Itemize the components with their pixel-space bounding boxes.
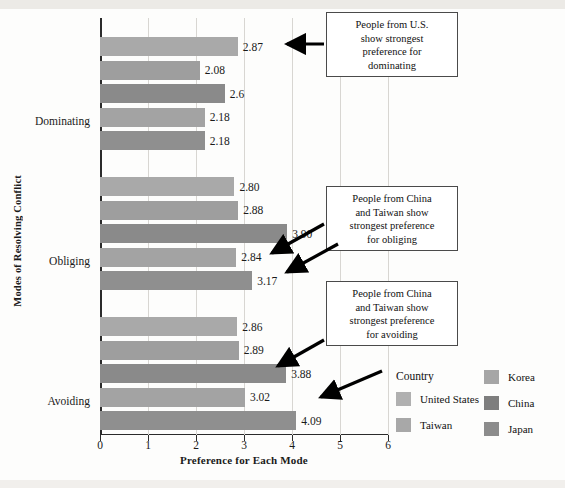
bar-value-label: 3.17 bbox=[252, 274, 277, 286]
bar-value-label: 2.87 bbox=[238, 40, 263, 52]
legend-label: United States bbox=[420, 393, 479, 405]
bar-japan-obliging bbox=[100, 271, 252, 290]
annotation-obliging: People from China and Taiwan show strong… bbox=[326, 186, 458, 251]
annotation-obliging-line-4: for obliging bbox=[333, 233, 451, 247]
bar-row: 2.6 bbox=[100, 84, 388, 103]
x-axis-title: Preference for Each Mode bbox=[100, 454, 388, 466]
bar-united-states-avoiding bbox=[100, 317, 237, 336]
bar-china-avoiding bbox=[100, 388, 245, 407]
bar-value-label: 2.88 bbox=[238, 204, 263, 216]
x-tick-label-1: 1 bbox=[145, 439, 151, 451]
bar-value-label: 4.09 bbox=[296, 414, 321, 426]
category-label-obliging: Obliging bbox=[49, 255, 90, 267]
bar-row: 2.18 bbox=[100, 108, 388, 127]
legend-item-taiwan[interactable]: Taiwan bbox=[396, 418, 452, 432]
annotation-avoiding-line-3: strongest preference bbox=[333, 314, 451, 328]
legend-item-korea[interactable]: Korea bbox=[484, 370, 535, 384]
bar-value-label: 2.84 bbox=[236, 251, 261, 263]
legend-label: China bbox=[508, 397, 534, 409]
annotation-avoiding-line-1: People from China bbox=[333, 287, 451, 301]
x-tick-label-2: 2 bbox=[193, 439, 199, 451]
legend: Country United StatesTaiwanKoreaChinaJap… bbox=[396, 370, 556, 442]
bar-value-label: 2.86 bbox=[237, 320, 262, 332]
bar-value-label: 2.08 bbox=[200, 64, 225, 76]
bar-row: 2.18 bbox=[100, 131, 388, 150]
bar-japan-avoiding bbox=[100, 411, 296, 430]
annotation-dominating-line-1: People from U.S. bbox=[333, 18, 451, 32]
bar-korea-dominating bbox=[100, 84, 225, 103]
category-label-dominating: Dominating bbox=[35, 115, 90, 127]
x-tick-label-3: 3 bbox=[241, 439, 247, 451]
bar-row: 3.88 bbox=[100, 364, 388, 383]
bar-china-obliging bbox=[100, 248, 236, 267]
annotation-dominating-line-3: preference for bbox=[333, 45, 451, 59]
annotation-dominating-line-4: dominating bbox=[333, 59, 451, 73]
annotation-obliging-line-3: strongest preference bbox=[333, 219, 451, 233]
y-axis-category-labels: Dominating Obliging Avoiding bbox=[0, 18, 98, 435]
bar-japan-dominating bbox=[100, 131, 205, 150]
annotation-avoiding: People from China and Taiwan show strong… bbox=[326, 281, 458, 346]
annotation-avoiding-line-2: and Taiwan show bbox=[333, 301, 451, 315]
x-tick-label-5: 5 bbox=[337, 439, 343, 451]
legend-item-china[interactable]: China bbox=[484, 396, 534, 410]
annotation-dominating: People from U.S. show strongest preferen… bbox=[326, 12, 458, 77]
bar-row: 4.09 bbox=[100, 411, 388, 430]
bar-value-label: 2.89 bbox=[239, 344, 264, 356]
chart-canvas: Modes of Resolving Conflict Dominating O… bbox=[0, 0, 565, 488]
x-tick-label-0: 0 bbox=[97, 439, 103, 451]
bar-taiwan-obliging bbox=[100, 201, 238, 220]
bar-korea-obliging bbox=[100, 224, 287, 243]
legend-title: Country bbox=[396, 370, 434, 382]
legend-swatch-japan bbox=[484, 422, 499, 436]
bar-value-label: 2.18 bbox=[205, 134, 230, 146]
annotation-avoiding-line-4: for avoiding bbox=[333, 328, 451, 342]
legend-swatch-united-states bbox=[396, 392, 411, 406]
legend-swatch-china bbox=[484, 396, 499, 410]
bar-taiwan-dominating bbox=[100, 61, 200, 80]
bar-china-dominating bbox=[100, 108, 205, 127]
bottom-margin-band bbox=[0, 480, 565, 488]
legend-item-japan[interactable]: Japan bbox=[484, 422, 533, 436]
bar-united-states-obliging bbox=[100, 177, 234, 196]
bar-value-label: 3.88 bbox=[286, 367, 311, 379]
bar-korea-avoiding bbox=[100, 364, 286, 383]
x-tick-label-4: 4 bbox=[289, 439, 295, 451]
legend-item-united-states[interactable]: United States bbox=[396, 392, 479, 406]
bar-value-label: 2.80 bbox=[234, 180, 259, 192]
bar-value-label: 3.02 bbox=[245, 391, 270, 403]
x-tick-label-6: 6 bbox=[385, 439, 391, 451]
annotation-obliging-line-2: and Taiwan show bbox=[333, 206, 451, 220]
legend-label: Japan bbox=[508, 423, 533, 435]
bar-united-states-dominating bbox=[100, 37, 238, 56]
legend-label: Taiwan bbox=[420, 419, 452, 431]
bar-value-label: 3.90 bbox=[287, 227, 312, 239]
legend-swatch-taiwan bbox=[396, 418, 411, 432]
annotation-obliging-line-1: People from China bbox=[333, 192, 451, 206]
legend-label: Korea bbox=[508, 371, 535, 383]
legend-swatch-korea bbox=[484, 370, 499, 384]
bar-taiwan-avoiding bbox=[100, 341, 239, 360]
bar-row: 3.02 bbox=[100, 388, 388, 407]
annotation-dominating-line-2: show strongest bbox=[333, 32, 451, 46]
bar-value-label: 2.6 bbox=[225, 87, 244, 99]
category-label-avoiding: Avoiding bbox=[47, 395, 90, 407]
bar-value-label: 2.18 bbox=[205, 111, 230, 123]
top-margin-band bbox=[0, 0, 565, 9]
